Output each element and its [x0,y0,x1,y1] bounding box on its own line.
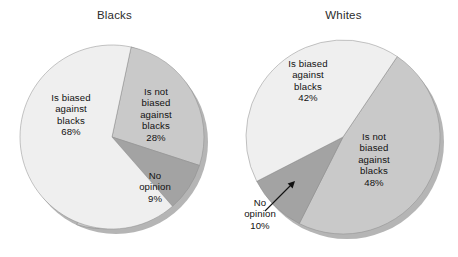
label-line-1: No [124,170,186,181]
slice-label-biased-blacks: Is biased against blacks 68% [28,92,114,138]
label-line-1: No [229,197,291,208]
label-line-1: Is biased [265,58,351,69]
label-percent: 10% [229,220,291,231]
label-percent: 48% [343,177,405,188]
pie-chart-panel-whites: Whites Is biased against blacks 42% Is n… [229,0,458,257]
label-percent: 42% [265,92,351,103]
slice-label-not-biased-whites: Is not biased against blacks 48% [343,131,405,188]
label-percent: 9% [124,193,186,204]
label-percent: 68% [28,126,114,137]
slice-label-no-opinion-blacks: No opinion 9% [124,170,186,204]
label-line-1: Is not [343,131,405,142]
label-line-2: opinion [124,181,186,192]
label-line-3: blacks [265,81,351,92]
label-line-2: biased [125,97,187,108]
slice-label-not-biased-blacks: Is not biased against blacks 28% [125,86,187,143]
label-line-4: blacks [125,120,187,131]
label-line-3: blacks [28,115,114,126]
label-percent: 28% [125,132,187,143]
label-line-2: opinion [229,208,291,219]
two-pie-chart-figure: Blacks Is biased against blacks 68% Is n… [0,0,458,257]
pie-chart-panel-blacks: Blacks Is biased against blacks 68% Is n… [0,0,229,257]
label-line-1: Is biased [28,92,114,103]
slice-label-biased-whites: Is biased against blacks 42% [265,58,351,104]
label-line-3: against [125,109,187,120]
label-line-2: biased [343,142,405,153]
label-line-1: Is not [125,86,187,97]
slice-label-no-opinion-whites: No opinion 10% [229,197,291,231]
label-line-2: against [265,69,351,80]
label-line-3: against [343,154,405,165]
label-line-4: blacks [343,165,405,176]
label-line-2: against [28,103,114,114]
